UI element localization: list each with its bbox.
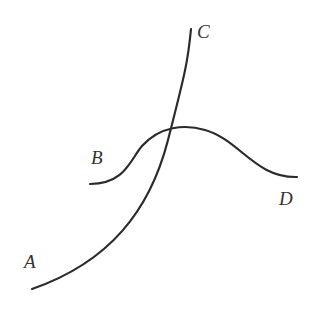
label-d: D	[278, 188, 293, 209]
label-b: B	[91, 147, 103, 168]
curve-bd	[90, 127, 297, 184]
diagram-svg: A B C D	[0, 0, 320, 309]
label-a: A	[22, 251, 36, 272]
curve-diagram: A B C D	[0, 0, 320, 309]
label-c: C	[197, 21, 210, 42]
curve-ac	[32, 29, 191, 289]
